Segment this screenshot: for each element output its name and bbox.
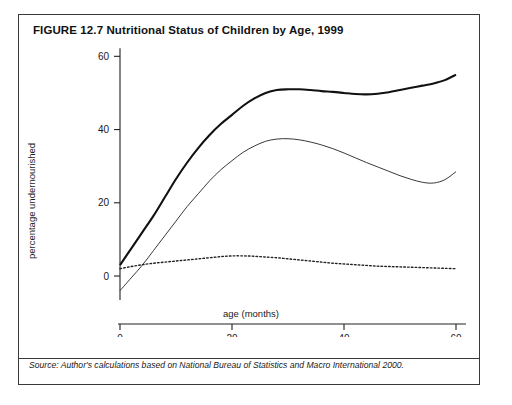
x-tick-label-0: 0 [117, 333, 123, 337]
series-line-underweight [120, 139, 456, 291]
source-note: Source: Author's calculations based on N… [29, 360, 404, 370]
y-tick-label-20: 20 [98, 197, 110, 208]
figure-title: FIGURE 12.7 Nutritional Status of Childr… [33, 24, 344, 36]
y-tick-label-0: 0 [103, 271, 109, 282]
y-tick-label-40: 40 [98, 124, 110, 135]
series-line-wasted [120, 256, 456, 269]
figure-container: FIGURE 12.7 Nutritional Status of Childr… [18, 14, 480, 385]
y-tick-label-60: 60 [98, 51, 110, 62]
y-axis: 0204060 [98, 48, 120, 300]
series-line-stunted [120, 75, 456, 265]
x-axis-title: age (months) [223, 308, 279, 319]
x-axis-ticks: 0204060 [117, 324, 462, 337]
y-axis-title: percentage undernourished [26, 143, 37, 259]
nutritional-status-line-chart: 0204060 0204060 percentage undernourishe… [19, 41, 479, 337]
data-series-group [120, 75, 456, 291]
x-tick-label-20: 20 [226, 333, 238, 337]
x-tick-label-40: 40 [338, 333, 350, 337]
y-axis-ticks: 0204060 [98, 51, 120, 282]
chart-plot-area: 0204060 0204060 percentage undernourishe… [19, 41, 479, 337]
source-divider [19, 358, 479, 359]
x-axis: 0204060 [117, 324, 466, 337]
x-tick-label-60: 60 [450, 333, 462, 337]
